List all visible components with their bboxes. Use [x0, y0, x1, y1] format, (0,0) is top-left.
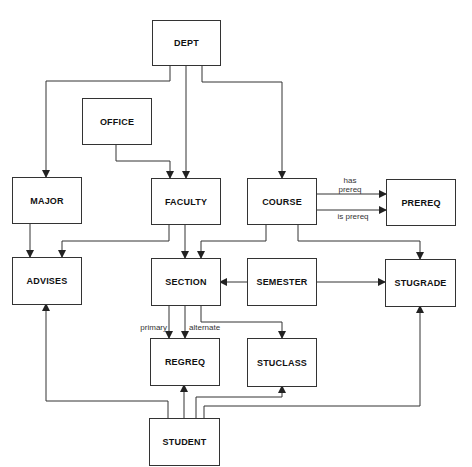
edge-dept-course	[202, 65, 282, 178]
entity-course: COURSE	[247, 178, 317, 225]
entity-major: MAJOR	[12, 177, 82, 224]
entity-advises: ADVISES	[12, 257, 82, 305]
entity-student: STUDENT	[149, 418, 220, 466]
entity-regreq: REGREQ	[150, 338, 220, 386]
edge-course-stugrade	[298, 224, 420, 259]
edge-course-section	[201, 224, 266, 258]
entity-section: SECTION	[151, 258, 221, 306]
edge-label-alternate: alternate	[189, 323, 229, 332]
entity-dept: DEPT	[152, 20, 221, 66]
entity-stugrade: STUGRADE	[385, 259, 456, 307]
edge-label-is-prereq: is prereq	[333, 212, 373, 221]
entity-office: OFFICE	[82, 98, 152, 145]
edge-label-primary: primary	[137, 323, 167, 332]
entity-faculty: FACULTY	[151, 178, 221, 225]
edge-label-has: has	[339, 176, 361, 185]
edge-section-stuclass	[201, 305, 282, 338]
entity-prereq: PREREQ	[386, 179, 456, 226]
diagram-connectors	[0, 0, 472, 467]
edge-office-faculty	[116, 144, 170, 178]
edge-label-prereq: prereq	[334, 185, 366, 194]
entity-semester: SEMESTER	[247, 258, 317, 306]
entity-stuclass: STUCLASS	[247, 338, 317, 387]
edge-faculty-advises	[62, 224, 169, 257]
edge-student-stuclass	[196, 386, 282, 418]
